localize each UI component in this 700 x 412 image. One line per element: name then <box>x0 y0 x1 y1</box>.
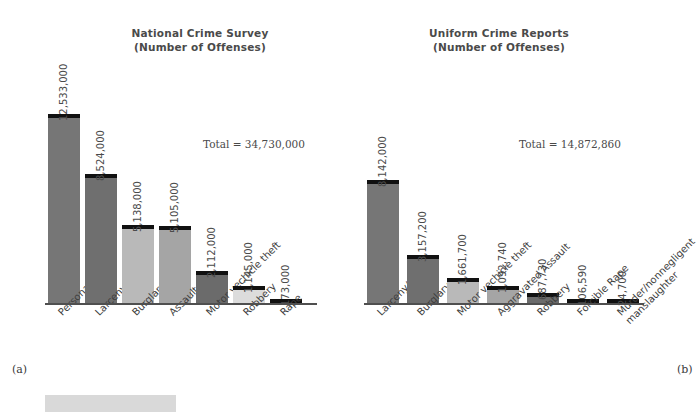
bar-value-label: 1,092,740 <box>497 242 508 293</box>
plot-area-b: 8,142,000Larceny/theft3,157,200Burglary1… <box>330 0 657 412</box>
bar-body <box>85 174 117 303</box>
bar <box>48 114 80 303</box>
bar <box>85 174 117 303</box>
bar-value-label: 1,661,700 <box>457 234 468 285</box>
chart-panel-uniform-crime-reports: Uniform Crime Reports (Number of Offense… <box>330 0 657 412</box>
chart-panel-national-crime-survey: National Crime Survey (Number of Offense… <box>0 0 330 412</box>
bar-value-label: 5,138,000 <box>132 181 143 232</box>
figure-letter-a: (a) <box>12 363 27 376</box>
figure-letter-b: (b) <box>677 363 693 376</box>
bar-value-label: 1,145,000 <box>243 242 254 293</box>
bar-value-label: 687,730 <box>537 259 548 300</box>
caption-placeholder-box <box>45 395 176 412</box>
bar-value-label: 8,524,000 <box>95 130 106 181</box>
bar-value-label: 2,112,000 <box>206 227 217 278</box>
bar-value-label: 5,105,000 <box>169 182 180 233</box>
bar-body <box>367 180 399 303</box>
x-axis-baseline-a <box>45 303 317 305</box>
plot-area-a: 12,533,000Personal theft8,524,000Larceny… <box>0 0 330 412</box>
bar-value-label: 3,157,200 <box>417 211 428 262</box>
bar-body <box>48 114 80 303</box>
bar-value-label: 8,142,000 <box>377 136 388 187</box>
x-axis-baseline-b <box>364 303 644 305</box>
bar-value-label: 12,533,000 <box>58 64 69 121</box>
bar <box>367 180 399 303</box>
